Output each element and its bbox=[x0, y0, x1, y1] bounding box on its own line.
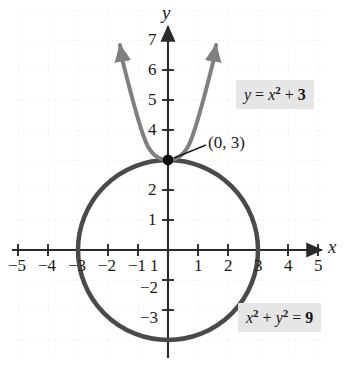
y-tick-label: 1 bbox=[148, 210, 157, 230]
x-tick-label: −3 bbox=[68, 256, 86, 276]
x-tick-label: 3 bbox=[254, 256, 263, 276]
parabola-equation-label: y = x2 + 3 bbox=[236, 80, 314, 109]
circle-eq-constant: 9 bbox=[305, 309, 313, 326]
y-tick-label: 2 bbox=[148, 180, 157, 200]
circle-equation-label: x2 + y2 = 9 bbox=[238, 303, 321, 332]
x-tick-label: 4 bbox=[284, 256, 293, 276]
y-tick-label: 6 bbox=[148, 60, 157, 80]
circle-eq-term2-base: y bbox=[276, 309, 283, 326]
parabola-eq-op2: + bbox=[281, 86, 298, 103]
x-axis-label: x bbox=[328, 236, 336, 258]
intersection-point-marker bbox=[163, 155, 174, 166]
y-tick-label: −2 bbox=[140, 278, 158, 298]
y-tick-label: 5 bbox=[148, 90, 157, 110]
parabola-eq-op1: = bbox=[251, 86, 268, 103]
x-tick-label: −4 bbox=[38, 256, 56, 276]
x-tick-label: −5 bbox=[8, 256, 26, 276]
circle-eq-op2: = bbox=[288, 309, 305, 326]
graph-figure: y x −5 −4 −3 −2 −1 1 2 3 4 5 7 6 5 4 2 1… bbox=[0, 0, 345, 366]
y-tick-label: 7 bbox=[148, 30, 157, 50]
y-axis-label: y bbox=[162, 2, 170, 24]
y-tick-label: 1 bbox=[150, 256, 159, 276]
circle-eq-op1: + bbox=[259, 309, 276, 326]
x-tick-label: 2 bbox=[224, 256, 233, 276]
y-tick-label: −3 bbox=[140, 308, 158, 328]
y-tick-label: 4 bbox=[148, 120, 157, 140]
intersection-point-label: (0, 3) bbox=[208, 133, 245, 153]
x-tick-label: 5 bbox=[314, 256, 323, 276]
x-tick-label: −1 bbox=[128, 256, 146, 276]
x-tick-label: 1 bbox=[194, 256, 203, 276]
x-tick-label: −2 bbox=[98, 256, 116, 276]
parabola-eq-constant: 3 bbox=[298, 86, 306, 103]
